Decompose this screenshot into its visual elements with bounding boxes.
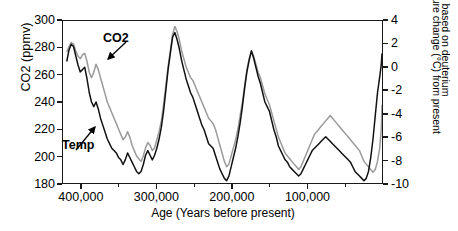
y-axis-left-tick-label: 220 xyxy=(25,123,55,135)
x-axis-minor-tick xyxy=(269,184,270,187)
y-axis-right-tick-label: -6 xyxy=(391,131,417,143)
x-axis-minor-tick xyxy=(345,184,346,187)
y-axis-left-tick-label: 300 xyxy=(25,14,55,26)
y-axis-right-tick xyxy=(383,183,388,185)
annotation-temp-label: Temp xyxy=(62,138,94,152)
x-axis-minor-tick xyxy=(118,184,119,187)
y-axis-left-tick-label: 240 xyxy=(25,96,55,108)
x-axis-tick xyxy=(307,184,309,189)
y-axis-left-tick-label: 200 xyxy=(25,151,55,163)
x-axis-tick-label: 100,000 xyxy=(272,191,342,203)
chart-figure: CO2 (ppmv) Temperature change (°C) from … xyxy=(0,0,458,231)
y-axis-right-tick xyxy=(383,113,388,115)
x-axis-tick-label: 400,000 xyxy=(46,191,116,203)
annotation-co2-label: CO2 xyxy=(103,31,129,45)
y-axis-right-tick-label: 0 xyxy=(391,61,417,73)
y-axis-left-tick-label: 280 xyxy=(25,41,55,53)
data-curves xyxy=(63,21,382,183)
x-axis-tick xyxy=(80,184,82,189)
y-axis-right-tick xyxy=(383,89,388,91)
x-axis-minor-tick xyxy=(194,184,195,187)
y-axis-right-tick-label: -4 xyxy=(391,108,417,120)
y-axis-right-tick xyxy=(383,43,388,45)
x-axis-tick xyxy=(231,184,233,189)
x-axis-title: Age (Years before present) xyxy=(62,206,384,220)
y-axis-left-tick-label: 180 xyxy=(25,178,55,190)
series-line-temp xyxy=(67,33,382,181)
y-axis-right-tick xyxy=(383,160,388,162)
y-axis-right-tick xyxy=(383,136,388,138)
x-axis-tick-label: 200,000 xyxy=(197,191,267,203)
y-axis-right-tick-label: 2 xyxy=(391,37,417,49)
y-axis-right-tick-label: -2 xyxy=(391,84,417,96)
y-axis-right-tick-label: -8 xyxy=(391,155,417,167)
y-axis-right-tick xyxy=(383,19,388,21)
x-axis-tick-label: 300,000 xyxy=(121,191,191,203)
y-axis-right-tick-label: -10 xyxy=(391,178,417,190)
y-axis-left-tick-label: 260 xyxy=(25,69,55,81)
x-axis-tick xyxy=(156,184,158,189)
y-axis-right-title-line2: based on deuterium xyxy=(434,0,452,135)
y-axis-right-tick-label: 4 xyxy=(391,14,417,26)
y-axis-right-tick xyxy=(383,66,388,68)
